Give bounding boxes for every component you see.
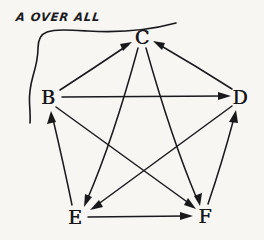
node-label-e[interactable]: E xyxy=(68,208,82,227)
edge-c-f xyxy=(146,48,202,206)
edge-f-d-arrowhead xyxy=(229,110,238,123)
curly-brace xyxy=(29,23,176,123)
edge-c-f-line xyxy=(146,48,197,199)
edge-d-e-line xyxy=(97,106,232,205)
node-label-f[interactable]: F xyxy=(198,207,211,226)
edge-b-f-arrowhead xyxy=(184,198,196,209)
edge-e-b xyxy=(47,111,72,205)
edge-d-c-line xyxy=(158,44,232,89)
edge-b-d-line xyxy=(62,96,225,97)
edge-b-d-arrowhead xyxy=(218,92,231,100)
edge-c-e-arrowhead xyxy=(84,194,92,207)
node-label-b[interactable]: B xyxy=(41,88,55,107)
edge-e-f-arrowhead xyxy=(180,212,193,220)
node-label-c[interactable]: C xyxy=(135,28,150,47)
graph-svg xyxy=(0,0,264,240)
edge-b-f-line xyxy=(56,107,190,204)
edge-d-c-arrowhead xyxy=(153,41,165,50)
edge-c-e xyxy=(84,48,138,207)
diagram-canvas: B C D E F A OVER ALL xyxy=(0,0,264,240)
edge-e-f xyxy=(88,212,193,220)
edge-b-d xyxy=(62,92,231,100)
node-label-d[interactable]: D xyxy=(232,88,247,107)
edge-e-b-arrowhead xyxy=(47,111,56,124)
edge-c-e-line xyxy=(87,48,138,200)
edges-group xyxy=(47,41,238,220)
edge-b-c xyxy=(60,42,132,90)
edge-e-b-line xyxy=(53,119,72,205)
edge-b-f xyxy=(56,107,196,209)
edge-d-c xyxy=(153,41,232,89)
annotation-brace-group xyxy=(29,23,176,123)
edge-f-d xyxy=(208,110,238,204)
edge-f-d-line xyxy=(208,118,234,204)
edge-b-c-line xyxy=(60,45,128,90)
annotation-text: A OVER ALL xyxy=(15,10,101,24)
edge-e-f-line xyxy=(88,216,186,217)
